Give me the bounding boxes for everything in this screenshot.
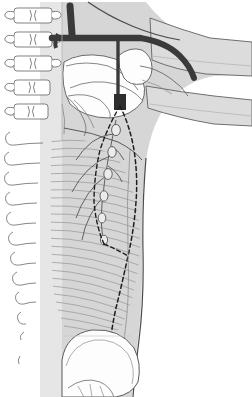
anatomy-illustration <box>0 0 252 397</box>
anatomy-figure-root <box>0 0 252 397</box>
